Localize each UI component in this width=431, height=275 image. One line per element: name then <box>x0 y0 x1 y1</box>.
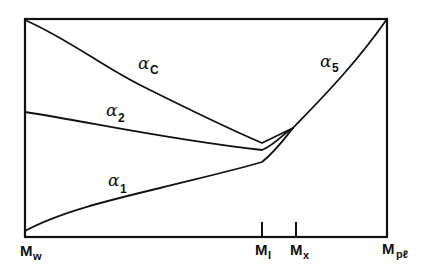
curve-alpha-c <box>25 20 293 143</box>
svg-text:pℓ: pℓ <box>396 248 408 260</box>
axis-label-m-pl: M pℓ <box>382 240 408 260</box>
svg-text:2: 2 <box>118 111 125 125</box>
svg-text:M: M <box>290 241 303 258</box>
svg-text:α: α <box>138 53 150 73</box>
curve-alpha-5 <box>293 19 387 128</box>
label-alpha-2: α 2 <box>106 100 125 125</box>
svg-text:I: I <box>268 249 271 261</box>
svg-text:α: α <box>106 100 118 120</box>
label-alpha-5: α 5 <box>320 51 339 75</box>
axis-label-m-x: M x <box>290 241 310 261</box>
axis-label-m-i: M I <box>255 241 271 261</box>
svg-text:x: x <box>303 249 310 261</box>
plot-frame <box>25 19 387 237</box>
label-alpha-c: α C <box>138 53 159 77</box>
svg-text:w: w <box>32 250 42 262</box>
axis-label-m-w: M w <box>20 242 42 262</box>
svg-text:C: C <box>150 63 159 77</box>
svg-text:M: M <box>382 240 395 257</box>
alpha-curves-diagram: α C α 2 α 1 α 5 M w M I M x M pℓ <box>0 0 431 275</box>
svg-text:M: M <box>255 241 268 258</box>
curve-alpha-2 <box>25 112 293 150</box>
svg-text:α: α <box>320 51 332 71</box>
svg-text:1: 1 <box>120 182 127 196</box>
label-alpha-1: α 1 <box>108 170 127 196</box>
svg-text:5: 5 <box>332 61 339 75</box>
svg-text:M: M <box>20 242 33 259</box>
curve-alpha-1 <box>25 128 293 231</box>
svg-text:α: α <box>108 170 120 190</box>
